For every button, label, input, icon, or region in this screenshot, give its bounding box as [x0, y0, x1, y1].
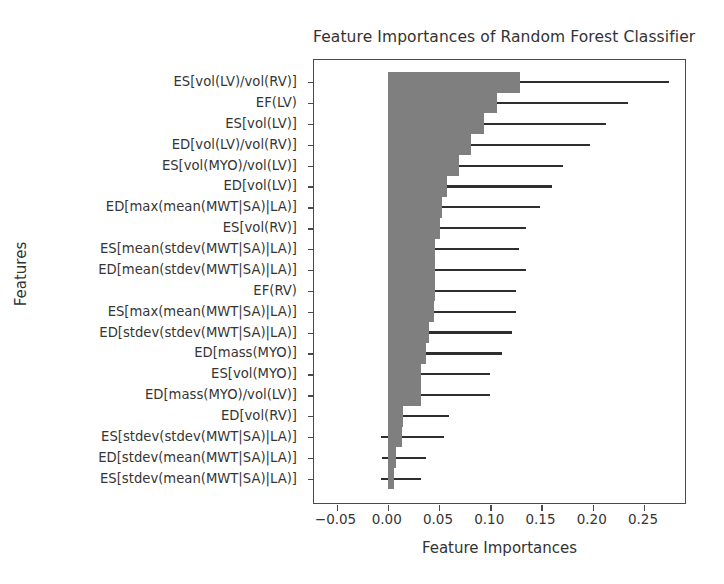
y-axis-tick: [308, 186, 314, 187]
bar: [388, 301, 434, 322]
y-axis-tick: [308, 416, 314, 417]
y-axis-tick-label: EF(LV): [256, 94, 297, 109]
error-bar: [381, 478, 421, 480]
y-axis-tick-label: ED[stdev(stdev(MWT|SA)|LA)]: [99, 324, 297, 339]
bar: [388, 468, 394, 489]
bar: [388, 197, 442, 218]
plot-area: [314, 60, 685, 503]
bar: [388, 239, 435, 260]
y-axis-tick-labels: ES[vol(LV)/vol(RV)]EF(LV)ES[vol(LV)]ED[v…: [0, 59, 305, 504]
y-axis-tick-label: ED[mass(MYO)/vol(LV)]: [145, 387, 297, 402]
y-axis-tick-label: ES[mean(stdev(MWT|SA)|LA)]: [100, 241, 297, 256]
bar: [388, 155, 460, 176]
plot-frame: [313, 59, 686, 504]
x-axis-tick-label: 0.05: [423, 511, 453, 527]
y-axis-tick-label: ES[vol(RV)]: [223, 220, 297, 235]
y-axis-tick-label: ED[vol(RV)]: [221, 408, 297, 423]
y-axis-tick: [308, 291, 314, 292]
bar: [388, 343, 426, 364]
y-axis-tick-label: ES[vol(LV)/vol(RV)]: [174, 74, 297, 89]
y-axis-tick: [308, 312, 314, 313]
y-axis-tick-label: ED[vol(LV)/vol(RV)]: [172, 136, 297, 151]
y-axis-tick: [308, 249, 314, 250]
bar: [388, 92, 498, 113]
y-axis-tick: [308, 166, 314, 167]
y-axis-tick-label: ES[max(mean(MWT|SA)|LA)]: [108, 303, 297, 318]
y-axis-tick-label: ED[vol(LV)]: [223, 178, 297, 193]
bar: [388, 176, 447, 197]
bar: [388, 259, 435, 280]
bar: [388, 406, 403, 427]
x-axis-tick-label: 0.20: [577, 511, 607, 527]
y-axis-tick: [308, 333, 314, 334]
y-axis-tick-label: ED[max(mean(MWT|SA)|LA)]: [106, 199, 297, 214]
bar: [388, 364, 421, 385]
bar: [388, 72, 520, 93]
bar: [388, 385, 421, 406]
y-axis-tick-label: EF(RV): [253, 282, 297, 297]
y-axis-tick: [308, 374, 314, 375]
chart-figure: Feature Importances of Random Forest Cla…: [0, 0, 724, 584]
error-bar: [499, 81, 668, 83]
y-axis-tick-label: ES[vol(MYO)/vol(LV)]: [162, 157, 297, 172]
x-axis-tick-label: 0.10: [474, 511, 504, 527]
y-axis-tick: [308, 145, 314, 146]
bar: [388, 426, 402, 447]
x-axis-tick-label: 0.25: [628, 511, 658, 527]
bar: [388, 322, 429, 343]
y-axis-tick-label: ED[mass(MYO)]: [194, 345, 297, 360]
x-axis-title: Feature Importances: [313, 539, 686, 557]
y-axis-tick: [308, 437, 314, 438]
y-axis-tick: [308, 270, 314, 271]
x-axis-tick-label: 0.15: [525, 511, 555, 527]
y-axis-tick-label: ES[vol(LV)]: [225, 115, 297, 130]
bar: [388, 113, 484, 134]
y-axis-tick: [308, 479, 314, 480]
y-axis-tick: [308, 228, 314, 229]
bar: [388, 280, 435, 301]
y-axis-tick-label: ED[stdev(mean(MWT|SA)|LA)]: [98, 449, 297, 464]
bar: [388, 447, 396, 468]
x-axis-tick-label: −0.05: [315, 511, 356, 527]
y-axis-tick: [308, 103, 314, 104]
chart-title: Feature Importances of Random Forest Cla…: [313, 28, 687, 46]
y-axis-tick: [308, 458, 314, 459]
y-axis-tick-label: ES[stdev(mean(MWT|SA)|LA)]: [100, 470, 297, 485]
y-axis-tick: [308, 124, 314, 125]
x-axis-tick-labels: −0.050.000.050.100.150.200.25: [313, 511, 686, 533]
y-axis-tick: [308, 207, 314, 208]
y-axis-tick: [308, 395, 314, 396]
y-axis-tick-label: ES[stdev(stdev(MWT|SA)|LA)]: [101, 428, 297, 443]
bar: [388, 134, 471, 155]
x-axis-tick-label: 0.00: [372, 511, 402, 527]
y-axis-tick: [308, 82, 314, 83]
y-axis-tick-label: ED[mean(stdev(MWT|SA)|LA)]: [98, 261, 297, 276]
y-axis-tick-label: ES[vol(MYO)]: [211, 366, 297, 381]
y-axis-tick: [308, 353, 314, 354]
bar: [388, 218, 440, 239]
